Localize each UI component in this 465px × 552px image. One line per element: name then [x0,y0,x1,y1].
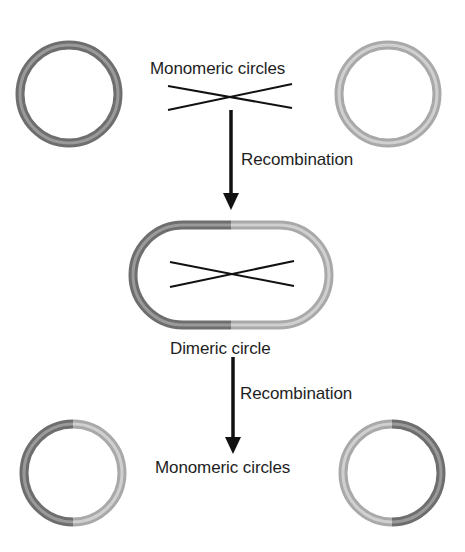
top-left-monomer-circle [20,45,118,143]
label-bottom-monomeric-circles: Monomeric circles [155,458,290,478]
arrow-down-1 [223,110,239,210]
crossover-x-dimer [170,261,294,287]
arrow-down-2 [225,357,241,454]
label-dimeric-circle: Dimeric circle [170,339,271,359]
label-recombination-2: Recombination [240,384,352,404]
label-recombination-1: Recombination [241,150,353,170]
crossover-x-top [168,84,292,110]
top-right-monomer-circle [339,45,437,143]
label-top-monomeric-circles: Monomeric circles [150,59,285,79]
bottom-left-monomer-circle [24,424,122,522]
bottom-right-monomer-circle [343,424,441,522]
